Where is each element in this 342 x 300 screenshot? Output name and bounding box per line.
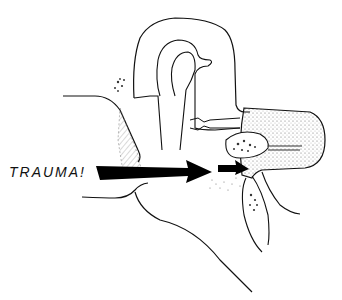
lower-right-line <box>262 172 300 214</box>
bone-cluster-upper <box>114 78 125 92</box>
ossicle-stem <box>134 52 195 150</box>
impact-spray <box>209 177 240 190</box>
ear-illustration <box>0 0 342 300</box>
bone-cluster-lower <box>249 194 258 211</box>
ear-canal-lower <box>82 183 252 292</box>
semicircular-canal-inner <box>157 40 240 130</box>
semicircular-canal <box>134 18 250 112</box>
trauma-label: TRAUMA! <box>9 164 86 180</box>
large-arrow-icon <box>96 160 212 183</box>
ear-trauma-diagram: TRAUMA! <box>0 0 342 300</box>
vestibule-bone <box>242 176 269 252</box>
